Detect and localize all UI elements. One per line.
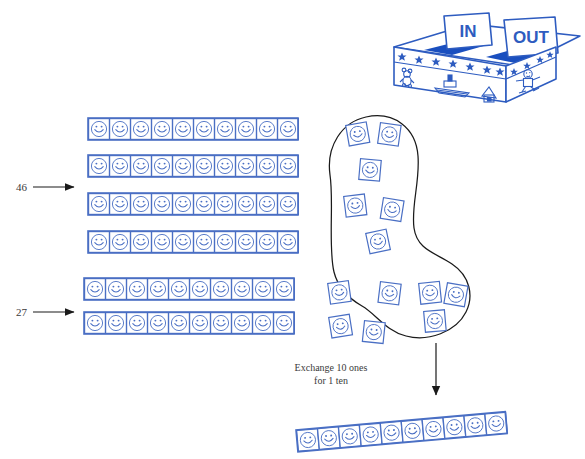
in-sign-label: IN <box>460 22 477 41</box>
result-ten-row[interactable] <box>296 412 508 452</box>
loose-one-tile[interactable] <box>444 283 468 307</box>
ten-row[interactable] <box>84 312 294 334</box>
in-sign: IN <box>444 13 492 49</box>
loose-one-tile[interactable] <box>424 310 447 333</box>
group-46-tens-rows <box>88 118 298 253</box>
exchange-machine[interactable]: IN OUT <box>394 13 580 102</box>
ten-row[interactable] <box>88 155 298 177</box>
loose-one-tile[interactable] <box>378 282 401 305</box>
loose-one-tile[interactable] <box>362 321 385 344</box>
addend-label-46: 46 <box>16 181 27 193</box>
ten-row[interactable] <box>84 278 294 300</box>
loose-one-tile[interactable] <box>359 159 382 182</box>
exchange-caption-line-1: Exchange 10 ones <box>276 361 386 374</box>
loose-one-tile[interactable] <box>378 123 401 146</box>
loose-one-tile[interactable] <box>380 198 404 222</box>
out-sign-label: OUT <box>513 28 550 47</box>
worksheet-illustration: IN OUT <box>0 0 585 459</box>
loose-one-tile[interactable] <box>346 122 370 146</box>
ten-row[interactable] <box>88 193 298 215</box>
illustration-canvas: IN OUT <box>0 0 585 459</box>
loose-one-tile[interactable] <box>419 281 442 304</box>
group-27-tens-rows <box>84 278 294 334</box>
ten-row[interactable] <box>88 231 298 253</box>
loose-one-tile[interactable] <box>328 281 351 304</box>
addend-label-27: 27 <box>16 306 27 318</box>
loose-one-tile[interactable] <box>329 314 353 338</box>
exchange-caption-line-2: for 1 ten <box>276 374 386 387</box>
ten-row[interactable] <box>88 118 298 140</box>
loose-one-tile[interactable] <box>366 229 391 254</box>
loose-ones-scattered <box>328 122 468 344</box>
loose-one-tile[interactable] <box>344 194 367 217</box>
exchange-caption: Exchange 10 ones for 1 ten <box>276 361 386 387</box>
